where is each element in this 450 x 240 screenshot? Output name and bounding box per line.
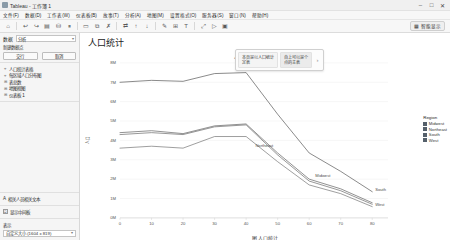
svg-text:20: 20 bbox=[181, 221, 187, 226]
tableau-home-icon[interactable]: ⌂ bbox=[3, 21, 13, 31]
toolbar-separator bbox=[116, 22, 117, 30]
legend-swatch bbox=[423, 127, 427, 131]
clear-sheet-icon[interactable]: ✗ bbox=[103, 21, 113, 31]
show-mark-labels-icon[interactable]: T bbox=[181, 21, 191, 31]
maximize-button[interactable]: □ bbox=[426, 0, 437, 11]
text-icon: A bbox=[3, 196, 6, 201]
swap-rows-columns-icon[interactable]: ⇄ bbox=[120, 21, 130, 31]
close-button[interactable]: ✕ bbox=[437, 0, 448, 11]
menu-file[interactable]: 文件(F) bbox=[2, 12, 20, 18]
chart-legend: Region Midwest Northeast South West bbox=[423, 115, 447, 143]
field-icon: ⌖ bbox=[3, 73, 7, 78]
chevron-right-icon[interactable]: › bbox=[314, 52, 321, 68]
menu-window[interactable]: 窗口(N) bbox=[228, 12, 246, 18]
size-select-value: 自定义大小 (1604 x 819) bbox=[6, 230, 51, 236]
list-item-label: 表总数 bbox=[9, 79, 21, 85]
figure-caption: 图 人口统计 bbox=[80, 234, 450, 240]
cancel-button[interactable]: 取消 bbox=[42, 52, 77, 60]
legend-label: Midwest bbox=[429, 121, 444, 126]
menu-help[interactable]: 帮助(H) bbox=[251, 12, 269, 18]
legend-swatch bbox=[423, 122, 427, 126]
svg-text:6M: 6M bbox=[110, 99, 116, 104]
legend-label: Northeast bbox=[429, 127, 447, 132]
menu-map[interactable]: 地图(M) bbox=[146, 12, 165, 18]
line-chart[interactable]: 4 和（与分布）0M1M2M3M4M5M6M7M8M人口010203040506… bbox=[80, 51, 450, 240]
data-panel-section: 数据 分析 ▾ 新建数据点 交行 取消 bbox=[0, 33, 79, 63]
pause-refresh-icon[interactable]: ⏸ bbox=[64, 21, 74, 31]
undo-icon[interactable]: ↩ bbox=[20, 21, 30, 31]
filter-card-label: 显示中间板 bbox=[10, 209, 30, 215]
svg-text:人口: 人口 bbox=[85, 137, 90, 144]
title-bar: Tableau - 工作簿 1 – □ ✕ bbox=[0, 0, 450, 11]
field-icon: ⌖ bbox=[3, 66, 7, 71]
new-datasource-label: 新建数据点 bbox=[3, 44, 76, 50]
sidebar-footer: 表示 自定义大小 (1604 x 819) ▾ bbox=[0, 219, 79, 240]
legend-title: Region bbox=[423, 115, 447, 120]
popup-cell-2: 自上可以是个 点的主表 bbox=[280, 52, 312, 68]
duplicate-sheet-icon[interactable]: ⧉ bbox=[92, 21, 102, 31]
sort-ascending-icon[interactable]: ↑ bbox=[131, 21, 141, 31]
worksheet-canvas: 人口统计 本页是以人口统计 定表 自上可以是个 点的主表 › 4 和（与分布）0… bbox=[80, 33, 450, 240]
redo-icon[interactable]: ↪ bbox=[31, 21, 41, 31]
svg-text:10: 10 bbox=[149, 221, 155, 226]
svg-text:60: 60 bbox=[307, 221, 313, 226]
menu-format[interactable]: 设置格式(O) bbox=[169, 12, 198, 18]
menu-server[interactable]: 服务器(S) bbox=[201, 12, 224, 18]
svg-text:70: 70 bbox=[338, 221, 344, 226]
field-list: ⌖ 人口统计表格 ⌖ 每区域人口分布图 ⊞ 表总数 ⊞ 地图视图 ⊞ 仪表板 bbox=[0, 63, 79, 103]
toolbar-separator bbox=[77, 22, 78, 30]
fix-axes-icon[interactable]: ⤢ bbox=[198, 21, 208, 31]
show-me-button[interactable]: ▦ 智能显示 bbox=[410, 21, 445, 31]
new-worksheet-icon[interactable]: ▭ bbox=[81, 21, 91, 31]
main-body: 数据 分析 ▾ 新建数据点 交行 取消 ⌖ 人口统计表格 bbox=[0, 33, 450, 240]
save-icon[interactable]: ▤ bbox=[42, 21, 52, 31]
new-data-source-icon[interactable]: ⛁ bbox=[53, 21, 63, 31]
show-me-icon: ▦ bbox=[414, 24, 419, 29]
data-panel-header: 数据 分析 ▾ bbox=[3, 35, 76, 42]
highlight-icon[interactable]: ✎ bbox=[159, 21, 169, 31]
menu-analysis[interactable]: 分析(A) bbox=[124, 12, 142, 18]
list-item-label: 每区域人口分布图 bbox=[9, 72, 41, 78]
show-me-label: 智能显示 bbox=[421, 23, 441, 29]
analysis-select-value: 分析 bbox=[18, 36, 26, 42]
toolbar-separator bbox=[155, 22, 156, 30]
menu-dashboard[interactable]: 仪表板(B) bbox=[75, 12, 98, 18]
list-item-label: 仪表板 1 bbox=[9, 92, 25, 98]
sort-descending-icon[interactable]: ↓ bbox=[142, 21, 152, 31]
list-item[interactable]: ⊞ 仪表板 1 bbox=[3, 92, 76, 99]
toolbar: ⌂ ↩ ↪ ▤ ⛁ ⏸ ▭ ⧉ ✗ ⇄ ↑ ↓ ✎ ⊞ T ⤢ ▷ ▣ ▦ 智能… bbox=[0, 20, 450, 33]
svg-text:80: 80 bbox=[370, 221, 376, 226]
fit-selector-icon[interactable]: ▣ bbox=[220, 21, 230, 31]
toolbar-right-group: ▦ 智能显示 bbox=[410, 21, 447, 31]
page-title: 人口统计 bbox=[88, 36, 124, 49]
legend-swatch bbox=[423, 133, 427, 137]
data-panel-label: 数据 bbox=[3, 35, 13, 42]
group-members-icon[interactable]: ⊞ bbox=[170, 21, 180, 31]
popup-cell-1: 本页是以人口统计 定表 bbox=[238, 52, 278, 68]
checkbox[interactable]: ☑ bbox=[3, 209, 8, 214]
menu-bar: 文件(F) 数据(D) 工作表(W) 仪表板(B) 故事(T) 分析(A) 地图… bbox=[0, 11, 450, 20]
field-icon: ⊞ bbox=[3, 79, 7, 84]
ok-button[interactable]: 交行 bbox=[3, 52, 38, 60]
analysis-select[interactable]: 分析 ▾ bbox=[16, 35, 76, 42]
size-select[interactable]: 自定义大小 (1604 x 819) ▾ bbox=[3, 230, 76, 238]
svg-text:50: 50 bbox=[275, 221, 281, 226]
minimize-button[interactable]: – bbox=[415, 0, 426, 11]
menu-data[interactable]: 数据(D) bbox=[24, 12, 42, 18]
presentation-mode-icon[interactable]: ▷ bbox=[209, 21, 219, 31]
svg-text:4M: 4M bbox=[110, 138, 116, 143]
menu-worksheet[interactable]: 工作表(W) bbox=[46, 12, 70, 18]
svg-text:West: West bbox=[375, 204, 385, 208]
legend-label: West bbox=[429, 138, 438, 143]
marks-card[interactable]: A 相关人员相关文本 bbox=[0, 193, 79, 206]
field-icon: ⊞ bbox=[3, 92, 7, 97]
annotation-popup-card[interactable]: 本页是以人口统计 定表 自上可以是个 点的主表 › bbox=[235, 49, 324, 71]
chevron-down-icon: ▾ bbox=[71, 231, 73, 235]
filter-card[interactable]: ☑ 显示中间板 bbox=[0, 206, 79, 219]
menu-story[interactable]: 故事(T) bbox=[102, 12, 120, 18]
chart-svg: 4 和（与分布）0M1M2M3M4M5M6M7M8M人口010203040506… bbox=[80, 51, 450, 240]
svg-text:40: 40 bbox=[244, 221, 250, 226]
tableau-icon bbox=[2, 2, 8, 8]
tableau-window: Tableau - 工作簿 1 – □ ✕ 文件(F) 数据(D) 工作表(W)… bbox=[0, 0, 450, 240]
legend-item[interactable]: West bbox=[423, 138, 447, 144]
